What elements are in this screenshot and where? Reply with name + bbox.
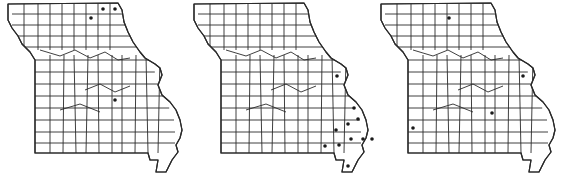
occurrence-dot [411, 126, 415, 130]
occurrence-dot [361, 137, 365, 141]
occurrence-dot [337, 143, 341, 147]
occurrence-dot [349, 137, 353, 141]
occurrence-dot [101, 7, 105, 11]
occurrence-dot [352, 106, 356, 110]
state-outline [194, 3, 368, 172]
occurrence-dot [323, 144, 327, 148]
distribution-map-2 [186, 0, 376, 181]
occurrence-dot [335, 74, 339, 78]
occurrence-dot [346, 122, 350, 126]
occurrence-dot [113, 7, 117, 11]
occurrence-dot [89, 16, 93, 20]
missouri-county-map [0, 0, 190, 181]
occurrence-dot [490, 111, 494, 115]
occurrence-dot [113, 98, 117, 102]
occurrence-dot [334, 128, 338, 132]
occurrence-dot [346, 164, 350, 168]
occurrence-dot [447, 16, 451, 20]
missouri-county-map [186, 0, 376, 181]
occurrence-dot [521, 74, 525, 78]
state-outline [381, 3, 555, 172]
occurrence-dot [356, 117, 360, 121]
missouri-county-map [373, 0, 563, 181]
distribution-map-3 [373, 0, 563, 181]
state-outline [8, 3, 182, 172]
distribution-map-1 [0, 0, 190, 181]
